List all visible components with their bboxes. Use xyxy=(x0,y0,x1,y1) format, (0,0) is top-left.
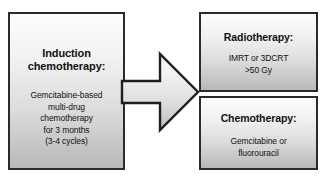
block-arrow-right-icon xyxy=(120,51,200,133)
chemotherapy-box: Chemotherapy: Gemcitabine or fluorouraci… xyxy=(199,96,318,170)
induction-body-line-4: for 3 months xyxy=(30,125,102,137)
induction-heading-line-2: chemotherapy: xyxy=(28,60,106,73)
radiotherapy-heading: Radiotherapy: xyxy=(224,31,293,44)
chemotherapy-heading: Chemotherapy: xyxy=(221,112,297,125)
flowchart-canvas: Induction chemotherapy: Gemcitabine-base… xyxy=(0,0,325,179)
induction-body-line-1: Gemcitabine-based xyxy=(30,90,102,102)
induction-chemotherapy-box: Induction chemotherapy: Gemcitabine-base… xyxy=(8,12,125,170)
induction-body-line-2: multi-drug xyxy=(30,102,102,114)
induction-body-line-5: (3-4 cycles) xyxy=(30,136,102,148)
radiotherapy-body: IMRT or 3DCRT >50 Gy xyxy=(229,53,289,76)
induction-body: Gemcitabine-based multi-drug chemotherap… xyxy=(30,90,102,148)
induction-heading: Induction chemotherapy: xyxy=(28,47,106,73)
radiotherapy-box: Radiotherapy: IMRT or 3DCRT >50 Gy xyxy=(199,12,318,92)
chemotherapy-body: Gemcitabine or fluorouracil xyxy=(230,136,286,159)
induction-heading-line-1: Induction xyxy=(28,47,106,60)
chemotherapy-body-line-1: Gemcitabine or xyxy=(230,136,286,148)
radiotherapy-body-line-2: >50 Gy xyxy=(229,65,289,77)
radiotherapy-body-line-1: IMRT or 3DCRT xyxy=(229,53,289,65)
chemotherapy-body-line-2: fluorouracil xyxy=(230,148,286,160)
induction-body-line-3: chemotherapy xyxy=(30,113,102,125)
